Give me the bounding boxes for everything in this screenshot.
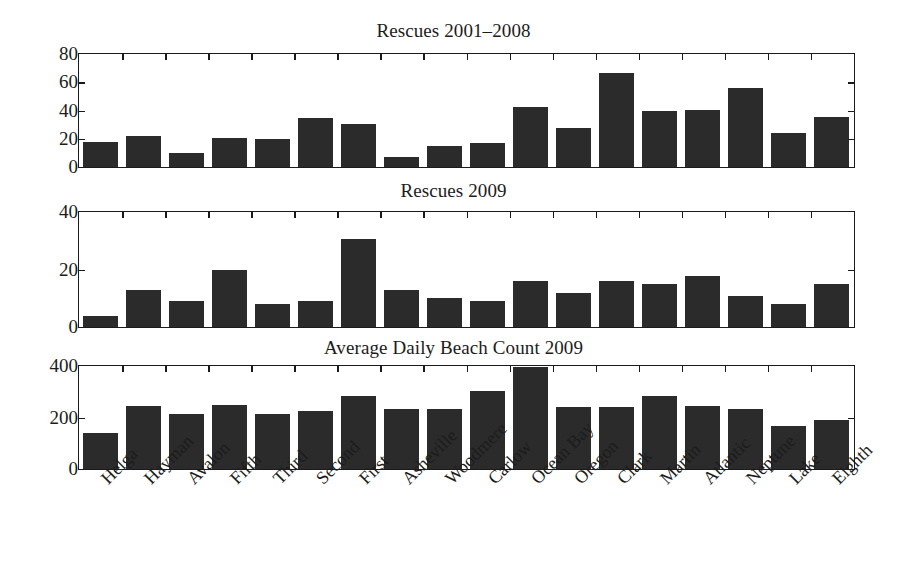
figure-canvas: Rescues 2001–2008 020406080 Rescues 2009… (0, 0, 907, 578)
x-tick-mark (596, 365, 597, 372)
x-tick-mark (768, 365, 769, 372)
x-tick-mark (811, 365, 812, 372)
x-tick-mark (467, 365, 468, 372)
x-tick-mark (682, 365, 683, 372)
x-tick-mark (165, 365, 166, 372)
y-tick-label: 200 (0, 407, 85, 429)
y-tick-label: 400 (0, 355, 85, 377)
x-tick-mark (380, 365, 381, 372)
panel-title: Average Daily Beach Count 2009 (0, 337, 907, 359)
x-tick-mark (208, 365, 209, 372)
x-tick-mark (553, 365, 554, 372)
x-tick-mark (294, 365, 295, 372)
x-tick-mark (510, 365, 511, 372)
x-tick-mark (423, 365, 424, 372)
x-axis-labels: HelgaHaymanAvalonFifthThirdSecondFirstAs… (0, 474, 907, 574)
x-tick-mark (639, 365, 640, 372)
x-tick-mark (725, 365, 726, 372)
x-tick-mark (251, 365, 252, 372)
x-tick-mark (122, 365, 123, 372)
y-tick-mark (78, 418, 85, 419)
y-tick-mark (848, 418, 855, 419)
x-tick-mark (337, 365, 338, 372)
